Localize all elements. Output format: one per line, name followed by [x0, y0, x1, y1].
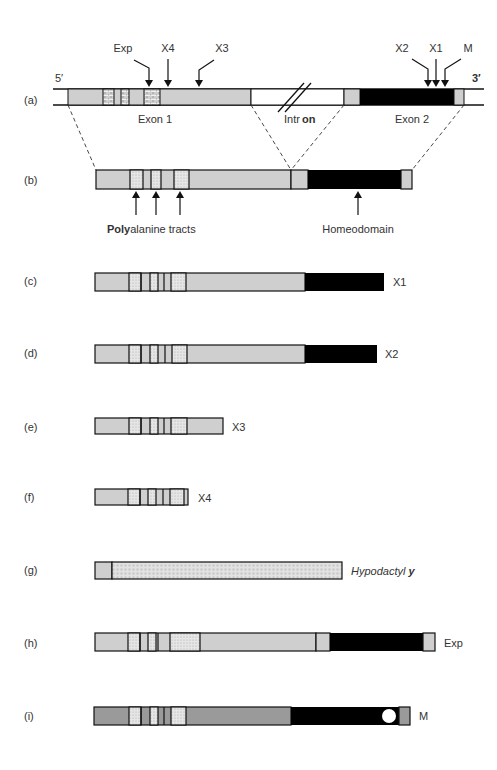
- exon2-utr-end: [454, 89, 464, 105]
- variant-x4-tract-2: [148, 489, 156, 505]
- row-label-e: (e): [24, 421, 37, 433]
- exon2-utr-start: [344, 89, 360, 105]
- variant-exp: (h) Exp: [24, 633, 463, 651]
- variant-m-tract-2: [150, 707, 158, 725]
- row-label-a: (a): [24, 94, 37, 106]
- variant-x2: (d) X2: [24, 345, 398, 363]
- arrowhead-polyala-2: [152, 191, 160, 198]
- row-label-f: (f): [24, 491, 34, 503]
- variant-hypodactyly: (g) Hypodactyly: [24, 562, 415, 579]
- variant-hypodactyly-label: Hypodactyly: [351, 565, 415, 577]
- arrowhead-x3: [195, 80, 203, 87]
- arrowhead-exp: [145, 80, 153, 87]
- variant-x1-homeodomain: [305, 273, 384, 291]
- projection-line-1: [68, 105, 96, 170]
- polyalanine-tract-3-gene: [144, 89, 160, 105]
- row-label-i: (i): [24, 710, 34, 722]
- five-prime-label: 5′: [55, 72, 63, 84]
- variant-x2-tract-1: [129, 345, 141, 363]
- arrowhead-x4: [164, 80, 172, 87]
- variant-exp-exon2-start: [316, 633, 330, 651]
- row-label-c: (c): [24, 275, 37, 287]
- mutation-arrows: Exp X4 X3 X2 X1 M: [114, 42, 473, 87]
- variant-exp-homeodomain: [330, 633, 423, 651]
- variant-x1-tract-1: [129, 273, 141, 291]
- hypodactyly-altered-region: [112, 562, 342, 579]
- marker-label-m: M: [463, 42, 472, 54]
- variant-x4-label: X4: [198, 492, 211, 504]
- variant-m-label: M: [419, 710, 428, 722]
- homeodomain-label: Homeodomain: [322, 223, 394, 235]
- hoxa13-mutation-diagram: (a) 5′ 3′ Exon 1 Intron Exon 2 Exp X4: [0, 0, 497, 770]
- variant-x2-exon1: [95, 345, 305, 363]
- marker-label-x2: X2: [395, 42, 408, 54]
- variant-x2-homeodomain: [305, 345, 377, 363]
- variant-x3-tract-2: [150, 418, 158, 434]
- polyalanine-tracts-label: Polyalanine tracts: [107, 223, 196, 235]
- protein-exon1-region: [96, 170, 291, 189]
- marker-label-x1: X1: [429, 42, 442, 54]
- variant-x4-tract-3: [170, 489, 184, 505]
- variant-x3-tract-1: [129, 418, 141, 434]
- variant-x4-tract-1: [128, 489, 140, 505]
- arrow-exp: [134, 60, 149, 81]
- protein-exon2-start: [291, 170, 308, 189]
- arrow-x3: [199, 60, 214, 81]
- exon2-homeodomain: [360, 89, 454, 105]
- variant-exp-exon2-end: [423, 633, 435, 651]
- intron-label: Intron: [284, 113, 316, 125]
- marker-label-exp: Exp: [114, 42, 133, 54]
- exon2-label: Exon 2: [395, 113, 429, 125]
- polyalanine-tract-1: [130, 170, 143, 189]
- polyalanine-tract-2-gene: [121, 89, 129, 105]
- protein-exon2-end: [401, 170, 412, 189]
- point-mutation-marker: [382, 709, 396, 723]
- gene-structure: (a) 5′ 3′ Exon 1 Intron Exon 2 Exp X4: [24, 42, 484, 170]
- intron-block: [251, 89, 344, 105]
- variant-m-tract-1: [129, 707, 141, 725]
- variant-exp-tract-1: [128, 633, 140, 651]
- marker-label-x3: X3: [215, 42, 228, 54]
- variant-x1-exon1: [95, 273, 305, 291]
- polyalanine-tract-1-gene: [103, 89, 114, 105]
- arrowhead-m: [441, 80, 449, 87]
- wildtype-protein: (b) Polyalanine tracts Homeodomain: [24, 170, 412, 235]
- arrow-x2: [412, 59, 428, 81]
- variant-x2-tract-3: [172, 345, 187, 363]
- homeodomain-block: [308, 170, 401, 189]
- variant-x2-tract-2: [150, 345, 158, 363]
- arrowhead-polyala-1: [132, 191, 140, 198]
- variant-x3-exon1: [95, 418, 223, 434]
- row-label-d: (d): [24, 347, 37, 359]
- arrowhead-polyala-3: [176, 191, 184, 198]
- marker-label-x4: X4: [161, 42, 174, 54]
- exon1-label: Exon 1: [138, 113, 172, 125]
- variant-x2-label: X2: [385, 348, 398, 360]
- arrow-m: [445, 59, 461, 81]
- arrowhead-x1: [432, 80, 440, 87]
- arrowhead-x2: [424, 80, 432, 87]
- row-label-h: (h): [24, 637, 37, 649]
- polyalanine-tract-3: [174, 170, 189, 189]
- variant-x1-label: X1: [393, 276, 406, 288]
- variant-exp-label: Exp: [444, 637, 463, 649]
- variant-x3-tract-3: [171, 418, 187, 434]
- variant-m-exon1: [94, 707, 291, 725]
- variant-x3-label: X3: [232, 421, 245, 433]
- variant-x1: (c) X1: [24, 273, 406, 291]
- variant-exp-tract-2: [148, 633, 156, 651]
- polyalanine-tract-2: [151, 170, 161, 189]
- three-prime-label: 3′: [472, 72, 481, 84]
- variant-m-exon2-end: [399, 707, 410, 725]
- arrowhead-homeodomain: [354, 191, 362, 198]
- variant-m: (i) M: [24, 707, 428, 725]
- variant-exp-expanded-tract: [170, 633, 200, 651]
- variant-m-tract-3: [171, 707, 186, 725]
- row-label-b: (b): [24, 174, 37, 186]
- variant-x3: (e) X3: [24, 418, 245, 434]
- hypodactyly-start-region: [95, 562, 112, 579]
- variant-x4: (f) X4: [24, 489, 211, 505]
- variant-x1-tract-2: [150, 273, 158, 291]
- variant-x1-tract-3: [171, 273, 186, 291]
- row-label-g: (g): [24, 564, 37, 576]
